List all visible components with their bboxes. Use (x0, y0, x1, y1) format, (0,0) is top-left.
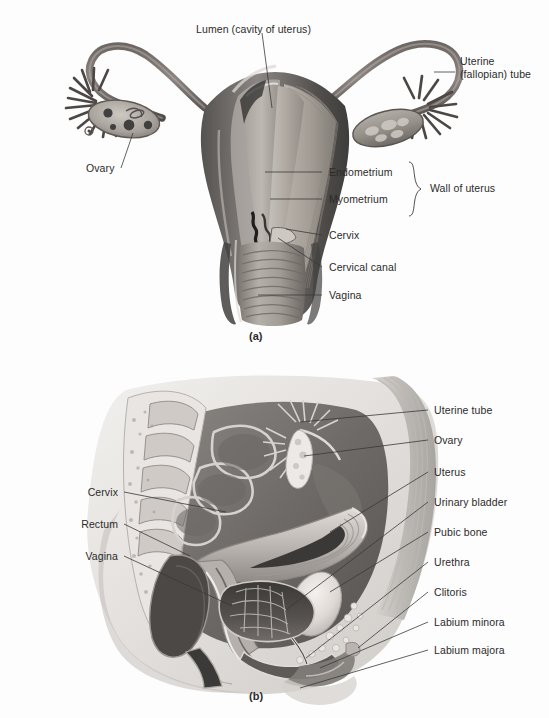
label-ovary-b: Ovary (434, 434, 463, 447)
label-uterine-tube-a-line1: Uterine (460, 55, 531, 68)
label-myometrium: Myometrium (329, 193, 388, 206)
label-cervical-canal: Cervical canal (329, 261, 396, 274)
label-ovary-a: Ovary (86, 162, 115, 175)
label-clitoris: Clitoris (434, 586, 467, 599)
label-vagina-a: Vagina (329, 289, 362, 302)
figure-female-reproductive-system: Lumen (cavity of uterus) Uterine (fallop… (0, 0, 549, 718)
label-uterine-tube-b: Uterine tube (434, 404, 492, 417)
panel-b-sagittal-section: Uterine tube Ovary Uterus Urinary bladde… (0, 360, 549, 718)
label-vagina-b: Vagina (8, 550, 118, 563)
wall-of-uterus-brace (406, 160, 426, 218)
label-cervix-b: Cervix (8, 486, 118, 499)
label-urinary-bladder: Urinary bladder (434, 496, 507, 509)
label-urethra: Urethra (434, 556, 470, 569)
panel-a-anterior-view: Lumen (cavity of uterus) Uterine (fallop… (0, 0, 549, 360)
label-labium-majora: Labium majora (434, 644, 505, 657)
label-wall-of-uterus: Wall of uterus (430, 182, 495, 195)
panel-a-artwork (0, 0, 549, 360)
label-uterus-b: Uterus (434, 466, 466, 479)
label-endometrium: Endometrium (329, 166, 393, 179)
label-lumen: Lumen (cavity of uterus) (196, 23, 311, 36)
label-labium-minora: Labium minora (434, 616, 505, 629)
label-uterine-tube-a: Uterine (fallopian) tube (460, 55, 531, 80)
caption-b: (b) (249, 690, 263, 702)
label-pubic-bone: Pubic bone (434, 526, 488, 539)
caption-a: (a) (249, 330, 262, 342)
label-uterine-tube-a-line2: (fallopian) tube (460, 68, 531, 81)
label-cervix-a: Cervix (329, 229, 359, 242)
label-rectum: Rectum (8, 518, 118, 531)
